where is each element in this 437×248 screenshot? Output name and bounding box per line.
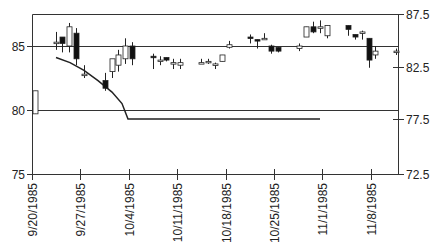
- candle: [199, 59, 204, 64]
- candle: [206, 59, 211, 64]
- candlestick-chart: 85 80 75 87.5 82.5 77.5 72.5 9/20/1985 9…: [0, 0, 437, 248]
- candle: [103, 73, 108, 91]
- right-tick-label: 72.5: [406, 168, 430, 182]
- candle: [60, 37, 65, 52]
- candle: [353, 34, 358, 39]
- x-tick-label: 10/18/1985: [220, 183, 234, 243]
- candle: [220, 55, 225, 61]
- left-tick-label: 80: [12, 104, 26, 118]
- candle: [213, 63, 218, 69]
- candle: [178, 59, 183, 69]
- candle: [360, 31, 365, 40]
- candle: [325, 26, 330, 39]
- right-tick-label: 77.5: [406, 113, 430, 127]
- candle: [276, 47, 281, 52]
- candle: [373, 46, 378, 59]
- right-tick-label: 87.5: [406, 8, 430, 22]
- candles: [33, 20, 399, 113]
- candle: [67, 23, 72, 52]
- right-tick-label: 82.5: [406, 61, 430, 75]
- candle: [33, 91, 38, 114]
- candle: [367, 38, 372, 67]
- x-tick-label: 10/25/1985: [268, 183, 282, 243]
- candle: [297, 43, 302, 51]
- x-tick-label: 10/4/1985: [123, 183, 137, 237]
- candle: [346, 26, 351, 36]
- candle: [227, 41, 232, 49]
- left-tick-label: 85: [12, 40, 26, 54]
- candle: [110, 59, 115, 78]
- x-tick-label: 9/27/1985: [74, 183, 88, 237]
- candle: [164, 58, 169, 62]
- candle: [318, 20, 323, 33]
- candle: [304, 27, 309, 37]
- left-tick-label: 75: [12, 168, 26, 182]
- plot-frame: [33, 15, 399, 175]
- x-tick-label: 11/8/1985: [365, 183, 379, 236]
- reference-lines: [27, 47, 399, 111]
- candle: [158, 56, 163, 65]
- candle: [262, 33, 267, 40]
- x-tick-label: 10/11/1985: [171, 183, 185, 242]
- candle: [311, 22, 316, 34]
- candle: [54, 32, 59, 50]
- candle: [269, 45, 274, 54]
- candle: [116, 50, 121, 72]
- trend-line: [56, 58, 320, 120]
- x-tick-label: 9/20/1985: [26, 183, 40, 237]
- candle: [151, 54, 156, 69]
- candle: [255, 40, 260, 49]
- x-tick-label: 11/1/1985: [316, 183, 330, 236]
- candle: [74, 28, 79, 65]
- candle: [171, 59, 176, 69]
- candle: [130, 42, 135, 65]
- x-tick-labels: 9/20/1985 9/27/1985 10/4/1985 10/11/1985…: [26, 183, 379, 243]
- candle: [123, 38, 128, 64]
- candle: [248, 34, 253, 43]
